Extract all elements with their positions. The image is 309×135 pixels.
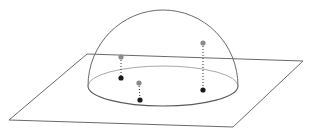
plane [9,54,303,127]
points-group [118,40,205,102]
hemisphere-dome [88,10,238,86]
hemisphere-projection-diagram [0,0,309,135]
hemisphere-base-front-arc [88,86,238,106]
hemisphere-base-back-arc [88,66,238,86]
diagram-canvas [0,0,309,135]
projected-point [137,97,142,102]
projected-point [200,87,205,92]
projected-point [118,75,123,80]
upper-point [118,54,123,59]
upper-point [200,40,205,45]
upper-point [136,80,141,85]
